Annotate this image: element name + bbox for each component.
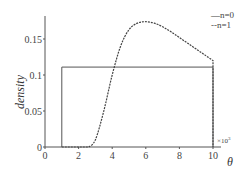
series-lines bbox=[62, 22, 213, 147]
y-tick-label: 0.15 bbox=[25, 34, 43, 45]
y-axis-label: density bbox=[13, 74, 27, 109]
x-tick-label: 6 bbox=[143, 150, 148, 161]
y-tick-label: 0 bbox=[37, 142, 42, 153]
legend-item-n-1: --n=1 bbox=[211, 20, 231, 30]
series-n1-line bbox=[62, 22, 213, 147]
x-axis-label: θ bbox=[227, 155, 233, 169]
x-tick-label: 2 bbox=[76, 150, 81, 161]
series-n0-line bbox=[62, 67, 213, 147]
x-multiplier: ×103 bbox=[217, 136, 231, 145]
x-tick-label: 8 bbox=[177, 150, 182, 161]
legend: —n=0--n=1 bbox=[210, 10, 235, 30]
y-tick-label: 0.05 bbox=[25, 106, 43, 117]
x-tick-label: 10 bbox=[208, 150, 218, 161]
density-chart: 00.050.10.150246810θdensity×103 —n=0--n=… bbox=[0, 0, 250, 172]
y-tick-label: 0.1 bbox=[30, 70, 43, 81]
x-tick-label: 0 bbox=[43, 150, 48, 161]
x-tick-label: 4 bbox=[110, 150, 115, 161]
legend-item-n-0: —n=0 bbox=[210, 10, 235, 20]
